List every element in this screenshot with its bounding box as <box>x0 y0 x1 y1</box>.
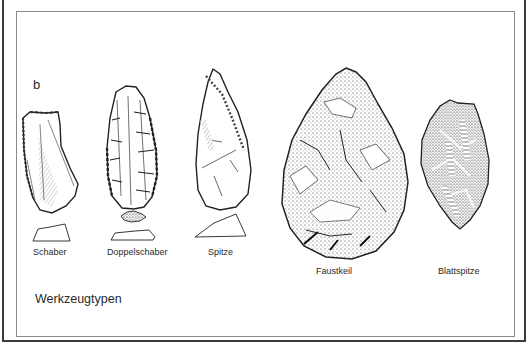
label-blattspitze: Blattspitze <box>438 266 480 276</box>
label-spitze: Spitze <box>208 247 233 257</box>
blattspitze-drawing <box>421 100 489 229</box>
label-faustkeil: Faustkeil <box>316 266 352 276</box>
figure-caption: Werkzeugtypen <box>35 292 122 306</box>
doppelschaber-cross-section <box>111 211 155 240</box>
spitze-drawing <box>196 69 251 210</box>
label-schaber: Schaber <box>33 247 67 257</box>
label-doppelschaber: Doppelschaber <box>107 247 168 257</box>
faustkeil-drawing <box>282 68 408 259</box>
spitze-cross-section <box>195 214 246 237</box>
schaber-cross-section <box>33 224 70 241</box>
panel-letter: b <box>33 77 40 92</box>
doppelschaber-drawing <box>107 86 157 209</box>
schaber-drawing <box>23 112 78 213</box>
